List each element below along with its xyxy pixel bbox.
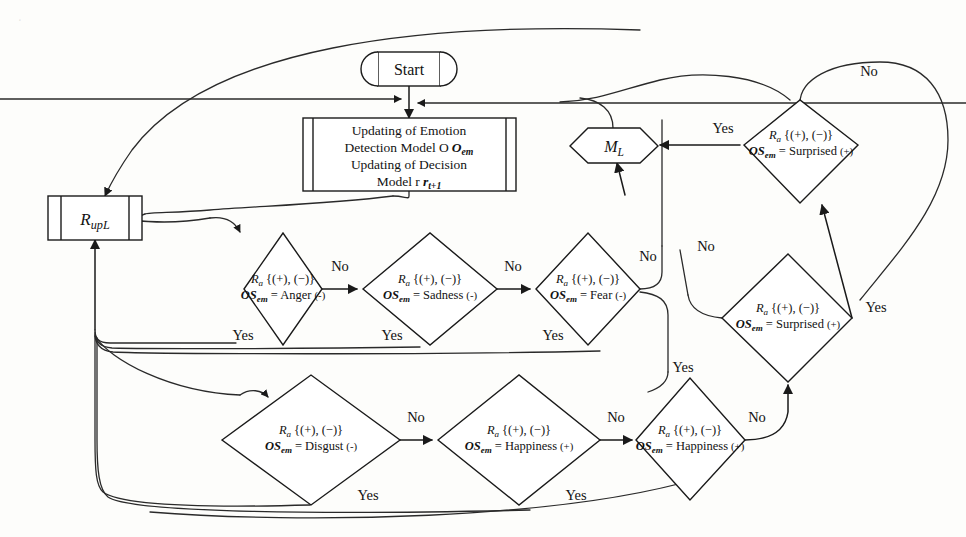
edge-surprised-bottom-no-up <box>680 250 688 295</box>
edge-process-to-rupl-right <box>145 196 393 214</box>
edge-surprised-top-no-left-loop <box>560 75 790 102</box>
label-surprised-top-no: No <box>860 63 878 79</box>
node-rupl[interactable]: RupL <box>48 196 142 240</box>
node-ml[interactable]: ML <box>570 128 658 163</box>
node-decision-surprised-bottom[interactable]: Ra{(+), (−)} OSem= Surprised(+) <box>722 254 852 382</box>
label-happiness1-yes: Yes <box>565 487 586 503</box>
process-line-2: Detection Model OOem <box>345 140 474 157</box>
process-line-1: Updating of Emotion <box>352 123 467 138</box>
edge-rupl-to-anger <box>210 218 240 232</box>
node-decision-happiness2[interactable]: Ra{(+), (−)} OSem= Happiness(+) <box>636 378 745 500</box>
edge-fear-no-down <box>640 292 668 372</box>
label-fear-no: No <box>639 248 657 264</box>
node-decision-surprised-top[interactable]: Ra{(+), (−)} OSem= Surprised(+) <box>744 100 858 203</box>
start-label: Start <box>394 61 425 78</box>
flowchart-svg: Start Updating of Emotion Detection Mode… <box>0 0 966 537</box>
sadness-bottom-label: OSem= Sadness(-) <box>383 288 478 304</box>
edge-trunk-to-happiness-area <box>648 372 668 392</box>
label-surprised-bottom-no: No <box>697 238 715 254</box>
edge-lead-to-disgust <box>240 391 268 397</box>
edge-ml-bottom-inflow <box>617 163 625 195</box>
edge-surprised-bottom-no <box>688 295 722 318</box>
figure-canvas: . <box>0 0 966 537</box>
label-disgust-yes: Yes <box>357 487 378 503</box>
label-trunk-yes: Yes <box>672 359 693 375</box>
edge-riser-to-disgust-lead <box>95 336 240 395</box>
node-start[interactable]: Start <box>361 52 457 86</box>
node-decision-disgust[interactable]: Ra{(+), (−)} OSem= Disgust(-) <box>222 375 400 505</box>
label-sadness-yes: Yes <box>381 327 402 343</box>
label-fear-yes: Yes <box>542 327 563 343</box>
label-happiness1-no: No <box>607 409 625 425</box>
edge-fear-yes-to-riser <box>95 334 600 354</box>
label-surprised-top-yes: Yes <box>712 120 733 136</box>
label-disgust-no: No <box>407 409 425 425</box>
node-process[interactable]: Updating of Emotion Detection Model OOem… <box>303 118 516 191</box>
label-anger-no: No <box>331 258 349 274</box>
edge-anger-yes-to-riser <box>95 330 236 343</box>
label-anger-yes: Yes <box>232 327 253 343</box>
node-decision-happiness1[interactable]: Ra{(+), (−)} OSem= Happiness(+) <box>438 375 600 505</box>
label-surprised-bottom-yes: Yes <box>865 299 886 315</box>
label-happiness2-no: No <box>748 409 766 425</box>
edge-sadness-yes-to-riser <box>95 332 420 349</box>
label-sadness-no: No <box>504 258 522 274</box>
process-line-3: Updating of Decision <box>351 157 467 172</box>
edge-process-bottom <box>393 191 409 198</box>
